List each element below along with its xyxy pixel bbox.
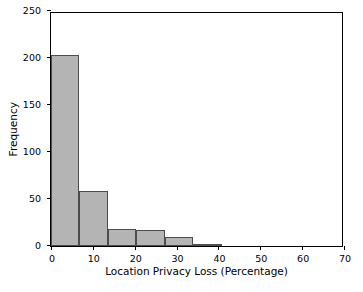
plot-area bbox=[51, 13, 342, 246]
histogram-bar bbox=[136, 230, 164, 246]
y-axis-tick-label: 200 bbox=[23, 53, 41, 63]
x-axis-tick: 30 bbox=[177, 246, 178, 250]
x-axis-tick: 20 bbox=[135, 246, 136, 250]
y-axis-tick-label: 100 bbox=[23, 147, 41, 157]
x-axis-title: Location Privacy Loss (Percentage) bbox=[50, 266, 343, 277]
x-axis-title-text: Location Privacy Loss (Percentage) bbox=[105, 265, 288, 277]
x-axis-tick: 10 bbox=[93, 246, 94, 250]
histogram-figure: Frequency 050100150200250 01020304050607… bbox=[0, 0, 363, 292]
y-axis-tick: 100 bbox=[47, 151, 51, 152]
x-axis-tick-label: 70 bbox=[339, 254, 351, 264]
y-axis-tick: 50 bbox=[47, 198, 51, 199]
x-axis-tick-label: 10 bbox=[88, 254, 100, 264]
histogram-bar bbox=[165, 237, 193, 246]
x-axis-tick-label: 40 bbox=[213, 254, 225, 264]
histogram-bar bbox=[51, 55, 79, 246]
x-axis-tick-label: 30 bbox=[172, 254, 184, 264]
x-axis-tick: 50 bbox=[260, 246, 261, 250]
x-axis-tick: 0 bbox=[51, 246, 52, 250]
x-axis-tick-label: 0 bbox=[49, 254, 55, 264]
y-axis-tick-label: 250 bbox=[23, 6, 41, 16]
x-axis-tick: 60 bbox=[302, 246, 303, 250]
histogram-bar bbox=[79, 191, 107, 246]
y-axis-title-text: Frequency bbox=[8, 102, 19, 156]
x-axis-tick: 70 bbox=[344, 246, 345, 250]
y-axis-tick-label: 0 bbox=[35, 241, 41, 251]
y-axis-tick: 200 bbox=[47, 57, 51, 58]
y-axis-tick: 150 bbox=[47, 104, 51, 105]
y-axis-tick: 250 bbox=[47, 10, 51, 11]
y-axis-title: Frequency bbox=[6, 12, 20, 247]
x-axis-tick-label: 60 bbox=[297, 254, 309, 264]
x-axis-tick: 40 bbox=[218, 246, 219, 250]
plot-axes: 050100150200250 010203040506070 bbox=[50, 12, 343, 247]
y-axis-tick-label: 50 bbox=[29, 194, 41, 204]
y-axis-tick-label: 150 bbox=[23, 100, 41, 110]
x-axis-tick-label: 20 bbox=[130, 254, 142, 264]
histogram-bar bbox=[108, 229, 136, 246]
x-axis-tick-label: 50 bbox=[255, 254, 267, 264]
